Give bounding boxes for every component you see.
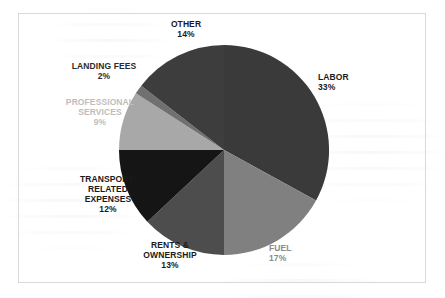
pie-label-transport-related-expenses: TRANSPORT- RELATED EXPENSES 12%: [52, 174, 164, 214]
pie-label-professional-value: 9%: [44, 117, 156, 127]
pie-label-rents-value: 13%: [122, 260, 218, 270]
pie-label-professional-line2: SERVICES: [44, 107, 156, 117]
pie-label-landing-fees: LANDING FEES 2%: [48, 61, 160, 81]
pie-label-professional-line1: PROFESSIONAL: [44, 97, 156, 107]
pie-label-transport-value: 12%: [52, 204, 164, 214]
pie-label-labor-name: LABOR: [318, 72, 349, 82]
pie-label-labor-value: 33%: [318, 82, 349, 92]
pie-label-landing-value: 2%: [48, 71, 160, 81]
pie-chart: LABOR 33% FUEL 17% RENTS & OWNERSHIP 13%…: [0, 0, 445, 298]
pie-label-transport-line2: RELATED: [52, 184, 164, 194]
pie-label-rents-line2: OWNERSHIP: [122, 250, 218, 260]
pie-label-labor: LABOR 33%: [318, 72, 349, 92]
pie-label-fuel: FUEL 17%: [269, 243, 292, 263]
pie-label-rents-line1: RENTS &: [122, 240, 218, 250]
pie-label-fuel-value: 17%: [269, 253, 292, 263]
pie-label-fuel-name: FUEL: [269, 243, 292, 253]
pie-label-transport-line3: EXPENSES: [52, 194, 164, 204]
pie-label-transport-line1: TRANSPORT-: [52, 174, 164, 184]
pie-label-landing-name: LANDING FEES: [48, 61, 160, 71]
pie-label-professional-services: PROFESSIONAL SERVICES 9%: [44, 97, 156, 127]
pie-label-rents-ownership: RENTS & OWNERSHIP 13%: [122, 240, 218, 270]
pie-label-other: OTHER 14%: [138, 19, 234, 39]
pie-label-other-name: OTHER: [138, 19, 234, 29]
pie-label-other-value: 14%: [138, 29, 234, 39]
